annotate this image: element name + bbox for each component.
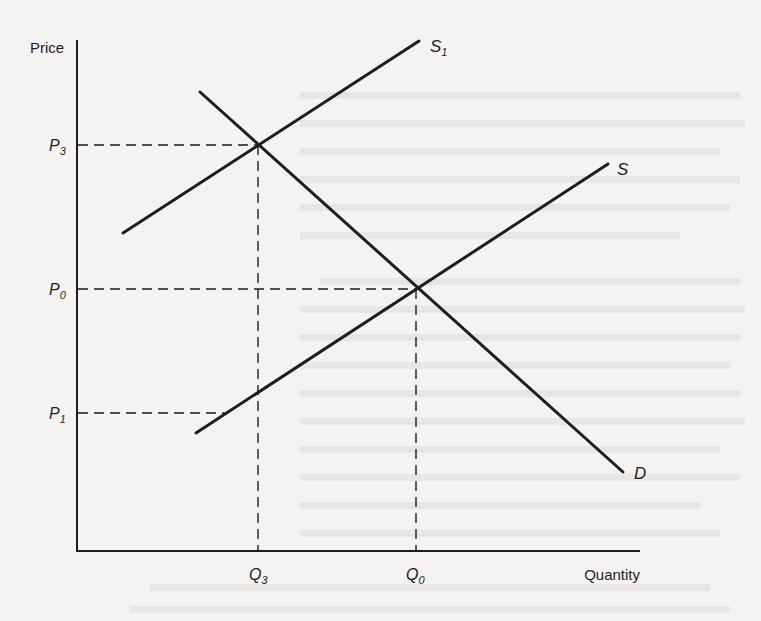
curve-label-s: S [617,160,629,179]
curves [123,41,623,472]
supply-demand-diagram: Price Quantity S1 S D P3 P0 P1 Q3 Q0 [0,0,761,621]
price-label-p1: P1 [49,405,66,425]
curve-label-d: D [634,464,646,483]
quantity-label-q3: Q3 [249,566,268,586]
price-label-p3: P3 [49,137,67,157]
y-axis-label: Price [30,39,64,56]
x-axis-label: Quantity [584,566,640,583]
price-label-p0: P0 [49,281,67,301]
quantity-label-q0: Q0 [406,566,425,586]
curve-label-s1: S1 [430,37,447,58]
